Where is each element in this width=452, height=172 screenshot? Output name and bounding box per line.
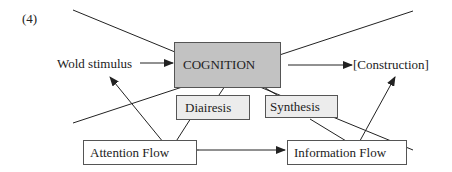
figure-label: (4)	[22, 12, 37, 25]
synthesis-node: Synthesis	[265, 95, 338, 118]
construction-label: [Construction]	[353, 58, 429, 71]
arrow-information-construction	[356, 77, 395, 148]
diairesis-node: Diairesis	[176, 95, 250, 120]
cognition-label: COGNITION	[183, 57, 255, 73]
cognition-node: COGNITION	[174, 42, 281, 88]
world-stimulus-label: Wold stimulus	[57, 57, 132, 70]
information-flow-node: Information Flow	[287, 140, 407, 165]
diairesis-label: Diairesis	[185, 100, 231, 116]
arrow-attention-stimulus	[110, 77, 168, 148]
attention-flow-node: Attention Flow	[83, 140, 197, 165]
information-flow-label: Information Flow	[294, 145, 386, 161]
attention-flow-label: Attention Flow	[90, 145, 169, 161]
synthesis-label: Synthesis	[270, 99, 320, 115]
